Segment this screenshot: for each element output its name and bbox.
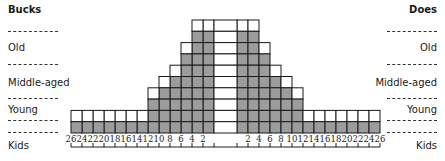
does-cell <box>281 122 292 133</box>
bucks-cell <box>203 65 214 76</box>
x-tick-label: 2 <box>200 134 205 144</box>
center-cell <box>214 77 237 88</box>
bucks-cell <box>148 122 159 133</box>
bucks-cell <box>159 88 170 99</box>
bucks-cell <box>71 122 82 133</box>
does-cell <box>259 122 270 133</box>
x-tick-label: 20 <box>99 134 110 144</box>
does-cell <box>303 122 314 133</box>
bucks-cell <box>203 99 214 110</box>
bucks-cell <box>181 122 192 133</box>
does-cell <box>237 43 248 54</box>
bucks-cell <box>115 110 126 121</box>
bucks-cell <box>181 77 192 88</box>
does-cell <box>248 110 259 121</box>
does-cell <box>248 122 259 133</box>
does-cell <box>325 110 336 121</box>
bucks-cell <box>192 54 203 65</box>
x-tick-label: 20 <box>342 134 353 144</box>
bucks-cell <box>159 99 170 110</box>
does-cell <box>314 110 325 121</box>
bucks-cell <box>104 122 115 133</box>
x-tick-label: 10 <box>287 134 298 144</box>
center-cell <box>214 65 237 76</box>
does-cell <box>314 122 325 133</box>
bucks-cell <box>203 77 214 88</box>
bucks-cell <box>104 110 115 121</box>
does-cell <box>358 122 369 133</box>
does-cell <box>237 54 248 65</box>
center-cell <box>214 31 237 42</box>
x-tick-label: 6 <box>267 134 272 144</box>
does-cell <box>281 110 292 121</box>
does-cell <box>237 20 248 31</box>
population-pyramid-chart: 2624222018161412108642246810121416182022… <box>0 0 445 161</box>
x-tick-label: 12 <box>143 134 154 144</box>
bucks-cell <box>93 122 104 133</box>
does-cell <box>270 88 281 99</box>
x-tick-label: 14 <box>132 134 143 144</box>
bucks-cell <box>203 88 214 99</box>
x-tick-label: 18 <box>331 134 342 144</box>
x-tick-label: 14 <box>309 134 320 144</box>
bucks-cell <box>93 110 104 121</box>
center-cell <box>214 54 237 65</box>
bucks-cell <box>82 110 93 121</box>
bucks-cell <box>181 65 192 76</box>
x-tick-label: 4 <box>189 134 194 144</box>
bucks-cell <box>170 77 181 88</box>
x-tick-label: 26 <box>375 134 386 144</box>
center-cell <box>214 122 237 133</box>
bucks-cell <box>192 20 203 31</box>
bucks-cell <box>170 110 181 121</box>
does-cell <box>325 122 336 133</box>
does-cell <box>336 122 347 133</box>
bucks-cell <box>203 43 214 54</box>
does-cell <box>237 31 248 42</box>
does-cell <box>292 110 303 121</box>
x-tick-label: 8 <box>167 134 172 144</box>
x-tick-label: 26 <box>66 134 77 144</box>
does-cell <box>248 65 259 76</box>
x-tick-label: 8 <box>278 134 283 144</box>
does-cell <box>248 31 259 42</box>
does-cell <box>248 77 259 88</box>
bucks-cell <box>203 31 214 42</box>
x-tick-label: 12 <box>298 134 309 144</box>
bucks-cell <box>192 122 203 133</box>
does-cell <box>248 20 259 31</box>
bucks-cell <box>203 110 214 121</box>
does-cell <box>292 88 303 99</box>
bucks-cell <box>181 99 192 110</box>
does-cell <box>259 77 270 88</box>
does-cell <box>237 122 248 133</box>
does-cell <box>281 99 292 110</box>
does-cell <box>237 88 248 99</box>
x-tick-label: 4 <box>256 134 261 144</box>
does-cell <box>369 110 380 121</box>
x-tick-label: 10 <box>154 134 165 144</box>
does-cell <box>358 110 369 121</box>
bucks-cell <box>148 88 159 99</box>
center-cell <box>214 88 237 99</box>
does-cell <box>259 99 270 110</box>
x-tick-label: 24 <box>77 134 88 144</box>
does-cell <box>248 88 259 99</box>
bucks-cell <box>181 110 192 121</box>
does-cell <box>347 110 358 121</box>
bucks-cell <box>192 65 203 76</box>
does-cell <box>347 122 358 133</box>
bucks-cell <box>159 122 170 133</box>
bucks-cell <box>192 31 203 42</box>
does-cell <box>259 54 270 65</box>
bucks-cell <box>148 99 159 110</box>
bucks-cell <box>82 122 93 133</box>
does-cell <box>270 99 281 110</box>
bucks-cell <box>203 122 214 133</box>
does-cell <box>303 110 314 121</box>
x-tick-label: 24 <box>364 134 375 144</box>
bucks-cell <box>192 43 203 54</box>
bucks-cell <box>192 110 203 121</box>
bucks-cell <box>170 99 181 110</box>
bucks-cell <box>148 110 159 121</box>
